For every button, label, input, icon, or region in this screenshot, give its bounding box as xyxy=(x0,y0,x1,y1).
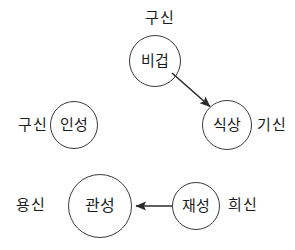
label-gisin-right: 기신 xyxy=(257,118,286,133)
label-huisin-right: 희신 xyxy=(228,198,257,213)
label-gusin-left: 구신 xyxy=(18,118,47,133)
node-inseong-label: 인성 xyxy=(60,118,89,133)
node-siksang[interactable]: 식상 xyxy=(202,100,252,150)
arrow-bigeop-to-siksang xyxy=(172,73,210,107)
node-jaeseong-label: 재성 xyxy=(182,199,211,214)
node-gwanseong[interactable]: 관성 xyxy=(68,174,132,238)
node-siksang-label: 식상 xyxy=(213,118,242,133)
diagram-canvas: 구신 비겁 식상 기신 구신 인성 용신 관성 재성 희신 xyxy=(0,0,295,250)
node-bigeop[interactable]: 비겁 xyxy=(129,35,181,87)
label-yongsin-left: 용신 xyxy=(16,198,45,213)
node-inseong[interactable]: 인성 xyxy=(50,101,98,149)
node-bigeop-label: 비겁 xyxy=(141,54,170,69)
node-gwanseong-label: 관성 xyxy=(85,198,116,214)
label-gusin-top: 구신 xyxy=(145,11,174,26)
node-jaeseong[interactable]: 재성 xyxy=(172,182,220,230)
